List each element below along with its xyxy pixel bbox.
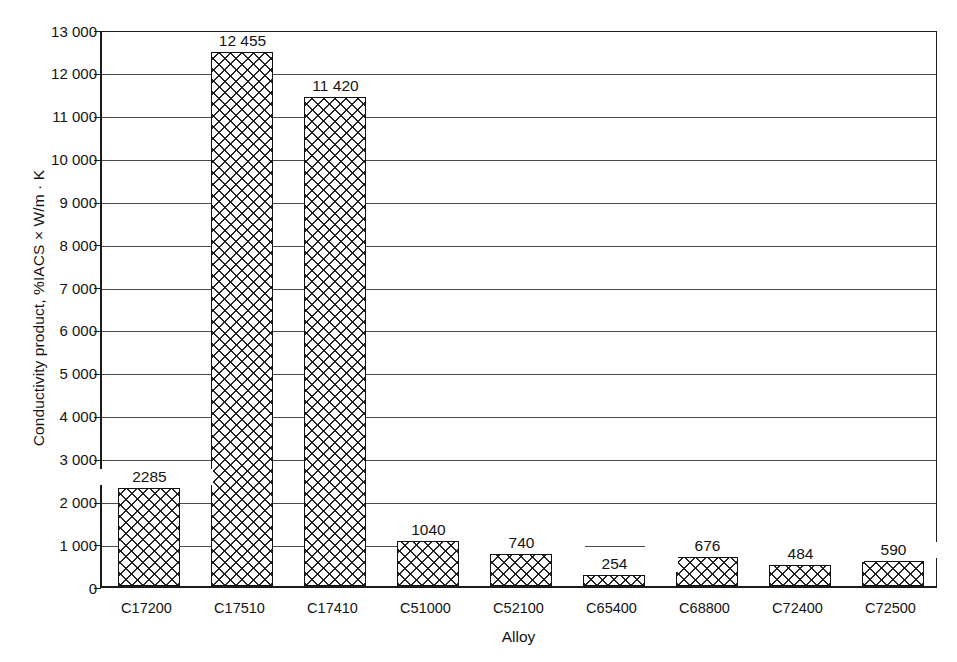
y-axis-tick bbox=[94, 117, 101, 118]
y-axis-tick-label: 9 000 bbox=[0, 195, 97, 210]
bar bbox=[490, 554, 552, 586]
y-axis-tick-labels: 01 0002 0003 0004 0005 0006 0007 0008 00… bbox=[0, 0, 97, 662]
x-axis-title: Alloy bbox=[459, 628, 579, 646]
bar bbox=[769, 565, 831, 586]
y-axis-tick-label: 5 000 bbox=[0, 366, 97, 381]
y-axis-tick-label: 1 000 bbox=[0, 538, 97, 553]
y-axis-tick bbox=[94, 331, 101, 332]
bar bbox=[211, 52, 273, 586]
bar-value-label: 2285 bbox=[87, 469, 213, 485]
bar-value-label: 254 bbox=[552, 556, 678, 572]
y-axis-tick-label: 12 000 bbox=[0, 66, 97, 81]
plot-area bbox=[100, 31, 937, 588]
y-axis-tick bbox=[94, 588, 101, 589]
y-axis-tick bbox=[94, 374, 101, 375]
bar-value-label: 11 420 bbox=[273, 78, 399, 94]
y-axis-tick bbox=[94, 31, 101, 32]
bar bbox=[676, 557, 738, 586]
y-axis-tick bbox=[94, 160, 101, 161]
y-axis-tick bbox=[94, 245, 101, 246]
y-axis-tick bbox=[94, 503, 101, 504]
y-axis-tick-label: 13 000 bbox=[0, 24, 97, 39]
y-axis-tick-label: 8 000 bbox=[0, 238, 97, 253]
y-axis-tick-label: 6 000 bbox=[0, 323, 97, 338]
y-axis-tick-label: 0 bbox=[0, 581, 97, 596]
bar bbox=[862, 561, 924, 586]
y-axis-tick-label: 2 000 bbox=[0, 495, 97, 510]
y-axis-tick-label: 7 000 bbox=[0, 281, 97, 296]
bar bbox=[304, 97, 366, 586]
y-axis-tick bbox=[94, 460, 101, 461]
bar-value-label: 12 455 bbox=[180, 33, 306, 49]
y-axis-tick-label: 4 000 bbox=[0, 409, 97, 424]
bar bbox=[118, 488, 180, 586]
bar bbox=[583, 575, 645, 586]
y-axis-tick-label: 10 000 bbox=[0, 152, 97, 167]
x-axis-category-label: C72500 bbox=[831, 600, 951, 616]
y-axis-tick bbox=[94, 417, 101, 418]
y-axis-tick bbox=[94, 74, 101, 75]
y-axis-tick bbox=[94, 545, 101, 546]
y-axis-tick bbox=[94, 203, 101, 204]
bar bbox=[397, 541, 459, 586]
y-axis-tick bbox=[94, 288, 101, 289]
bar-value-label: 590 bbox=[831, 542, 957, 558]
y-axis-tick-label: 11 000 bbox=[0, 109, 97, 124]
bar-value-label: 740 bbox=[459, 535, 585, 551]
bar-chart: Conductivity product, %IACS × W/m · K 01… bbox=[0, 0, 957, 662]
y-axis-tick-label: 3 000 bbox=[0, 452, 97, 467]
